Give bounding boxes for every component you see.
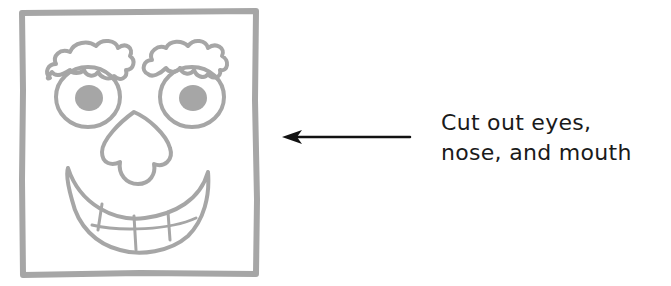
left-arrow-icon bbox=[278, 126, 418, 148]
face-mask-drawing bbox=[0, 0, 280, 286]
caption-line-2: nose, and mouth bbox=[441, 138, 632, 168]
left-eyebrow bbox=[47, 41, 133, 79]
left-pupil bbox=[75, 85, 103, 111]
instruction-caption: Cut out eyes, nose, and mouth bbox=[441, 108, 632, 168]
right-eyebrow bbox=[144, 41, 227, 78]
mouth bbox=[67, 168, 208, 253]
face-mask-illustration bbox=[0, 0, 280, 286]
nose bbox=[102, 112, 171, 184]
caption-line-1: Cut out eyes, bbox=[441, 108, 632, 138]
right-pupil bbox=[179, 85, 207, 111]
